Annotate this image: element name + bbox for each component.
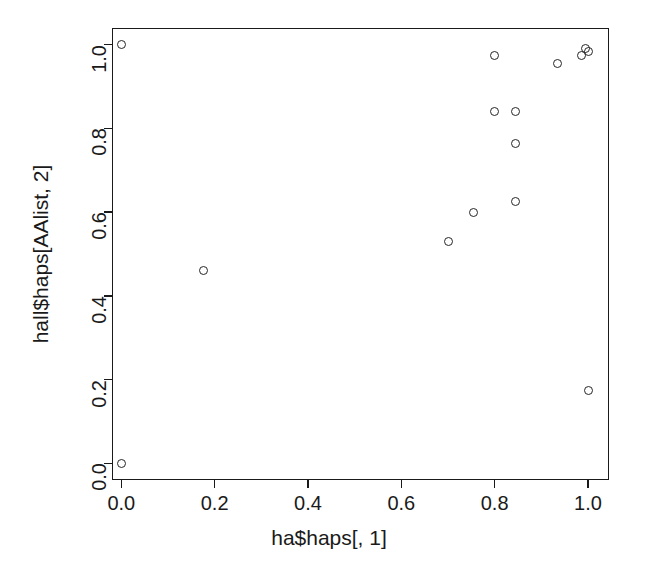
y-axis-tick-label: 0.8 [88,128,111,156]
y-axis-tick-label: 0.4 [88,296,111,324]
x-axis-tick [307,480,308,488]
x-axis-tick-label: 0.2 [201,492,229,515]
x-axis-tick-label: 0.4 [294,492,322,515]
y-axis-tick-label: 0.2 [88,380,111,408]
x-axis-tick [121,480,122,488]
x-axis-tick-label: 1.0 [574,492,602,515]
x-axis-label: ha$haps[, 1] [0,526,658,550]
y-axis-label-wrapper: hall$haps[AAlist, 2] [28,0,54,569]
x-axis-tick [494,480,495,488]
plot-frame [112,28,609,480]
x-axis-tick [214,480,215,488]
x-axis-tick-label: 0.0 [107,492,135,515]
x-axis-tick-label: 0.6 [387,492,415,515]
y-axis-label: hall$haps[AAlist, 2] [29,165,53,344]
scatter-plot-figure: 0.00.20.40.60.81.00.00.20.40.60.81.0 ha$… [0,0,658,569]
y-axis-tick-label: 0.6 [88,212,111,240]
x-axis-tick-label: 0.8 [481,492,509,515]
x-axis-tick [587,480,588,488]
y-axis-tick-label: 1.0 [88,45,111,73]
x-axis-tick [401,480,402,488]
y-axis-tick-label: 0.0 [88,463,111,491]
